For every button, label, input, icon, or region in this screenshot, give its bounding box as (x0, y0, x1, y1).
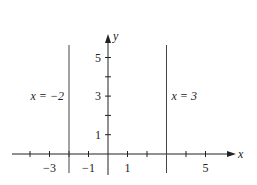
x-tick-label: 1 (125, 161, 131, 175)
y-axis-arrow-icon (105, 34, 111, 43)
y-axis-label: y (112, 29, 119, 43)
x-axis-label: x (237, 147, 244, 161)
x-axis-arrow-icon (227, 151, 236, 157)
x-tick-label: −1 (82, 161, 95, 175)
y-tick-label: 5 (95, 51, 101, 65)
line-x-3-label: x = 3 (171, 89, 197, 103)
line-x-neg2-label: x = −2 (29, 89, 64, 103)
y-tick-label: 3 (95, 89, 101, 103)
x-tick-label: −3 (43, 161, 56, 175)
coordinate-plane: xy−3−115135x = −2x = 3 (0, 0, 257, 185)
x-tick-label: 5 (203, 161, 209, 175)
y-tick-label: 1 (95, 128, 101, 142)
